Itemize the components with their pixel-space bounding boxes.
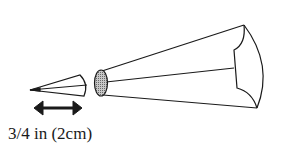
bag-opening: [95, 70, 108, 96]
large-cone: [102, 25, 263, 108]
measurement-label: 3/4 in (2cm): [8, 124, 92, 144]
small-tip-cone: [30, 75, 87, 96]
dimension-arrow: [34, 101, 82, 115]
